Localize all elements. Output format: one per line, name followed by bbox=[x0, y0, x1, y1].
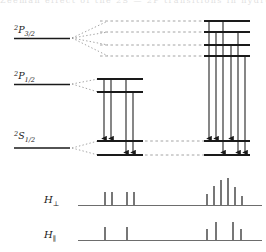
fanout-2P12-2 bbox=[72, 84, 98, 92]
spectrum-H-perp: H⊥ bbox=[43, 178, 262, 208]
transitions-from-2P32 bbox=[209, 21, 245, 153]
spectrum-label-H-par: H∥ bbox=[43, 229, 56, 243]
fanout-2P12-1 bbox=[72, 79, 98, 84]
spectrum-H-par: H∥ bbox=[43, 222, 262, 243]
level-group-2P32: 2P3/2 bbox=[13, 21, 250, 56]
fanout-2S12-2 bbox=[72, 148, 98, 155]
fanout-2P32-4 bbox=[72, 38, 108, 56]
level-label-2P12: 2P1/2 bbox=[13, 70, 35, 84]
fanout-2S12-1 bbox=[72, 141, 98, 148]
level-group-2S12: 2S1/2 bbox=[13, 130, 250, 156]
fanout-2P32-2 bbox=[72, 32, 108, 38]
level-group-2P12: 2P1/2 bbox=[13, 70, 143, 93]
fanout-2P32-1 bbox=[72, 21, 108, 38]
energy-level-diagram: 2P3/2 2P1/2 2S1/2 bbox=[0, 0, 266, 252]
fanout-2P32-3 bbox=[72, 38, 108, 45]
level-label-2S12: 2S1/2 bbox=[13, 130, 35, 144]
level-label-2P32: 2P3/2 bbox=[13, 24, 35, 38]
spectrum-label-H-perp: H⊥ bbox=[43, 194, 59, 208]
